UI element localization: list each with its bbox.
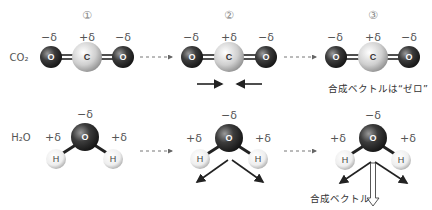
co2-charge-o-right-1: −δ [115,31,131,44]
atom-o: O [225,133,232,143]
atom-h: H [398,155,405,165]
atom-c: C [226,52,233,62]
atom-h: H [110,154,117,164]
h2o-charge-o-3: −δ [365,109,381,122]
atom-o: O [47,52,54,62]
atom-o: O [188,52,195,62]
h2o-resultant-note: 合成ベクトル [310,191,370,205]
h2o-charge-o-2: −δ [221,109,237,122]
h2o-charge-h-left-2: +δ [186,132,202,145]
co2-charge-c-2: +δ [221,31,237,44]
h2o-label: H₂O [11,132,30,143]
co2-charge-c-3: +δ [365,31,381,44]
h2o-charge-h-right-3: +δ [400,132,416,145]
h2o-charge-h-left-1: +δ [45,131,61,144]
atom-h: H [197,154,204,164]
h2o-charge-h-right-2: +δ [255,132,271,145]
atom-o: O [405,52,412,62]
co2-label: CO₂ [10,52,29,63]
atom-h: H [342,155,349,165]
step-number-1: ① [82,9,92,22]
step-number-3: ③ [368,9,378,22]
h2o-charge-h-right-1: +δ [111,131,127,144]
co2-charge-o-left-3: −δ [327,31,343,44]
atom-o: O [332,52,339,62]
atom-h: H [53,154,60,164]
atom-c: C [370,52,377,62]
co2-resultant-note: 合成ベクトルは“ゼロ” [328,81,428,95]
h2o-charge-h-left-3: +δ [330,132,346,145]
atom-o: O [81,132,88,142]
co2-charge-o-left-1: −δ [41,31,57,44]
co2-charge-o-right-3: −δ [401,31,417,44]
step-number-2: ② [224,9,234,22]
atom-h: H [255,154,262,164]
co2-charge-o-right-2: −δ [258,31,274,44]
atom-o: O [369,133,376,143]
atom-c: C [84,52,91,62]
atom-o: O [262,52,269,62]
co2-charge-o-left-2: −δ [183,31,199,44]
h2o-charge-o-1: −δ [77,108,93,121]
co2-charge-c-1: +δ [79,31,95,44]
atom-o: O [119,52,126,62]
